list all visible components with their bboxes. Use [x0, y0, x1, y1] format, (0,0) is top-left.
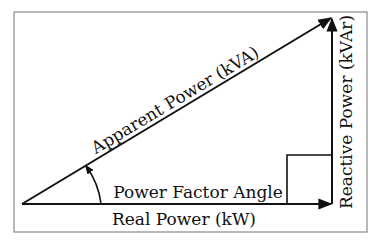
power-factor-angle-label: Power Factor Angle [113, 182, 283, 202]
power-triangle-diagram: Apparent Power (kVA) Power Factor Angle … [0, 0, 380, 245]
apparent-power-label: Apparent Power (kVA) [87, 42, 262, 158]
right-angle-marker [287, 155, 332, 204]
apparent-power-vector [22, 18, 331, 204]
angle-arc-icon [86, 166, 101, 204]
reactive-power-label: Reactive Power (kVAr) [336, 15, 356, 209]
real-power-label: Real Power (kW) [112, 209, 256, 229]
